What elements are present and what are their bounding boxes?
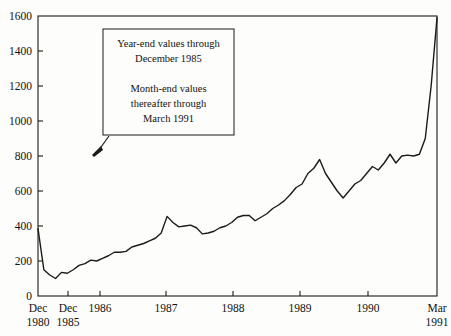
x-tick-label: 1980 xyxy=(27,316,50,328)
chart-canvas: 02004006008001000120014001600 Dec1980Dec… xyxy=(0,0,451,336)
x-tick-label: 1990 xyxy=(357,302,380,314)
x-tick-label: Dec xyxy=(59,302,78,314)
y-tick-label: 400 xyxy=(15,220,33,232)
y-tick-label: 200 xyxy=(15,255,33,267)
annotation-line: December 1985 xyxy=(135,53,202,64)
x-tick-label: Dec xyxy=(29,302,48,314)
line-chart: 02004006008001000120014001600 Dec1980Dec… xyxy=(0,0,451,336)
annotation-line: Year-end values through xyxy=(117,38,220,49)
x-tick-label: 1985 xyxy=(57,316,80,328)
x-tick-label: 1991 xyxy=(426,316,449,328)
y-tick-label: 1400 xyxy=(9,45,32,57)
x-tick-label: Mar xyxy=(427,302,446,314)
x-tick-label: 1989 xyxy=(289,302,312,314)
y-tick-label: 1200 xyxy=(9,80,32,92)
x-tick-label: 1987 xyxy=(155,302,178,314)
x-tick-label: 1988 xyxy=(222,302,245,314)
y-tick-label: 1600 xyxy=(9,10,32,22)
y-tick-label: 1000 xyxy=(9,115,32,127)
y-tick-label: 800 xyxy=(15,150,33,162)
x-tick-label: 1986 xyxy=(89,302,112,314)
annotation-line: thereafter through xyxy=(131,98,207,109)
y-tick-label: 600 xyxy=(15,185,33,197)
y-tick-label: 0 xyxy=(26,290,32,302)
annotation-line: Month-end values xyxy=(130,83,206,94)
annotation-line: March 1991 xyxy=(143,113,194,124)
